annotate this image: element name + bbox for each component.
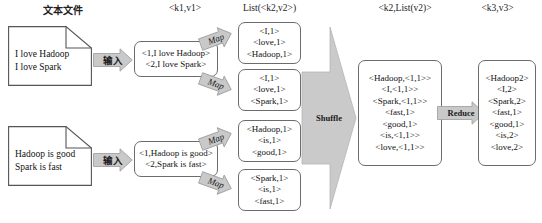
input-document-1: I love Hadoop I love Spark: [8, 26, 92, 86]
map-output-box-2-line-2: <love,1>: [253, 84, 285, 96]
shuffle-output-line-4: <fast,1>: [385, 107, 415, 119]
split-box-1-line-1: <1,I love Hadoop>: [142, 48, 210, 60]
map-output-box-3-line-3: <good,1>: [252, 147, 287, 159]
input-document-1-text: I love Hadoop I love Spark: [15, 48, 69, 73]
mapreduce-dataflow-diagram: 文本文件 <k1,v1> List(<k2,v2>) <k2,List(v2)>…: [0, 0, 542, 223]
shuffle-output-line-2: <I,<1,1>>: [382, 84, 419, 96]
input-document-2: Hadoop is good Spark is fast: [8, 126, 92, 186]
map-arrow-2: Map: [196, 68, 235, 100]
map-output-box-4: <Spark,1> <is,1> <fast,1>: [238, 169, 301, 211]
input-arrow-2: 输入: [93, 148, 133, 172]
shuffle-output-line-7: <love,<1,1>>: [375, 142, 424, 154]
map-output-box-4-line-1: <Spark,1>: [251, 173, 289, 185]
map-output-box-1-line-1: <I,1>: [260, 26, 280, 38]
reduce-output-line-1: <Hadoop2>: [485, 73, 528, 85]
map-output-box-4-line-3: <fast,1>: [255, 196, 285, 208]
map-arrow-3: Map: [196, 123, 235, 155]
reduce-output-line-5: <good,1>: [490, 119, 525, 131]
shuffle-output-line-1: <Hadoop,<1,1>>: [369, 73, 431, 85]
map-output-box-1-line-2: <love,1>: [253, 37, 285, 49]
map-arrow-4: Map: [196, 167, 235, 199]
reduce-output-line-4: <fast,1>: [492, 107, 522, 119]
reduce-output-line-3: <Spark,2>: [488, 96, 526, 108]
header-k2-listv2: <k2,List(v2)>: [345, 3, 465, 13]
header-k3v3: <k3,v3>: [455, 3, 540, 13]
shuffle-output-line-6: <is,<1,1>>: [380, 130, 420, 142]
reduce-output-line-7: <love,2>: [491, 142, 523, 154]
reduce-output-line-6: <is,2>: [496, 130, 519, 142]
split-box-2-line-2: <2,Spark is fast>: [145, 159, 206, 171]
header-text-files: 文本文件: [8, 2, 118, 17]
doc2-line-1: Hadoop is good: [15, 148, 75, 161]
doc1-line-1: I love Hadoop: [15, 48, 69, 61]
doc2-line-2: Spark is fast: [15, 161, 75, 174]
header-list-k2v2: List(<k2,v2>): [212, 3, 327, 13]
map-output-box-2-line-3: <Spark,1>: [251, 96, 289, 108]
shuffle-arrow: Shuffle: [300, 25, 358, 211]
map-arrow-1: Map: [196, 23, 235, 55]
input-document-2-text: Hadoop is good Spark is fast: [15, 148, 75, 173]
map-output-box-1-line-3: <Hadoop,1>: [247, 49, 292, 61]
map-output-box-1: <I,1> <love,1> <Hadoop,1>: [238, 22, 301, 64]
map-output-box-2: <I,1> <love,1> <Spark,1>: [238, 69, 301, 111]
shuffle-output-line-3: <Spark,<1,1>>: [373, 96, 428, 108]
split-box-1-line-2: <2,I love Spark>: [146, 59, 207, 71]
reduce-output-box: <Hadoop2> <I,2> <Spark,2> <fast,1> <good…: [478, 60, 536, 166]
shuffle-output-box: <Hadoop,<1,1>> <I,<1,1>> <Spark,<1,1>> <…: [358, 60, 442, 166]
map-output-box-4-line-2: <is,1>: [258, 184, 281, 196]
reduce-output-line-2: <I,2>: [497, 84, 517, 96]
doc1-line-2: I love Spark: [15, 61, 69, 74]
input-arrow-1: 输入: [93, 48, 133, 72]
shuffle-output-line-5: <good,1>: [383, 119, 418, 131]
map-output-box-3-line-1: <Hadoop,1>: [247, 124, 292, 136]
map-output-box-3-line-2: <is,1>: [258, 135, 281, 147]
map-output-box-3: <Hadoop,1> <is,1> <good,1>: [238, 120, 301, 162]
map-output-box-2-line-1: <I,1>: [260, 73, 280, 85]
